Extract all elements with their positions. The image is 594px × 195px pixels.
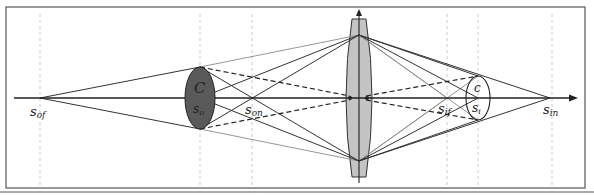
- focal-point-back: [365, 96, 369, 100]
- lens-ray-diagram: sof C so son sif c si sin: [0, 0, 594, 195]
- label-c: c: [474, 81, 481, 95]
- label-C: C: [194, 79, 206, 97]
- focal-point-front: [348, 96, 352, 100]
- object-disk: [185, 67, 215, 129]
